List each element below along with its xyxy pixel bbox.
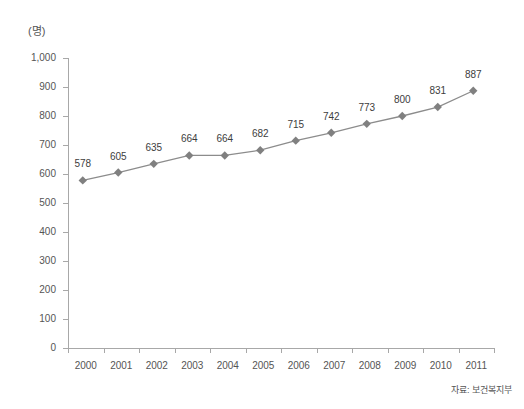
y-axis-tick-label: 200 [10, 284, 56, 295]
x-axis-tick [388, 348, 389, 353]
x-axis-tick-label: 2004 [208, 360, 248, 371]
y-axis-tick [63, 261, 68, 262]
x-axis-tick-label: 2011 [456, 360, 496, 371]
x-axis-tick [68, 348, 69, 353]
y-axis-tick-label: 900 [10, 81, 56, 92]
chart-figure: (명) 578605635664664682715742773800831887… [0, 0, 524, 409]
x-axis-tick [210, 348, 211, 353]
data-point-label: 578 [63, 158, 103, 169]
data-point-label: 664 [169, 133, 209, 144]
x-axis-tick-label: 2001 [101, 360, 141, 371]
x-axis-tick-label: 2008 [350, 360, 390, 371]
data-point-label: 605 [98, 151, 138, 162]
data-point-label: 635 [134, 142, 174, 153]
y-axis-tick [63, 203, 68, 204]
x-axis-tick [246, 348, 247, 353]
y-axis-tick-label: 300 [10, 255, 56, 266]
x-axis-tick-label: 2006 [279, 360, 319, 371]
x-axis-tick [104, 348, 105, 353]
y-axis-tick-label: 100 [10, 313, 56, 324]
data-point-label: 742 [311, 111, 351, 122]
source-note: 자료: 보건복지부 [451, 383, 512, 396]
data-point-marker [292, 136, 300, 144]
x-axis-tick-label: 2010 [421, 360, 461, 371]
y-axis-tick [63, 58, 68, 59]
x-axis-tick-label: 2007 [314, 360, 354, 371]
x-axis-tick-label: 2003 [172, 360, 212, 371]
data-point-marker [363, 120, 371, 128]
y-axis-tick [63, 87, 68, 88]
data-point-label: 773 [347, 102, 387, 113]
data-point-marker [398, 112, 406, 120]
y-axis-tick-label: 600 [10, 168, 56, 179]
x-axis-tick-label: 2009 [385, 360, 425, 371]
x-axis-tick [352, 348, 353, 353]
data-point-label: 887 [453, 69, 493, 80]
x-axis-tick [317, 348, 318, 353]
y-axis-tick-label: 0 [10, 342, 56, 353]
x-axis-tick [423, 348, 424, 353]
data-point-label: 715 [276, 119, 316, 130]
y-axis-tick-label: 700 [10, 139, 56, 150]
data-point-marker [114, 168, 122, 176]
y-axis-tick [63, 232, 68, 233]
data-point-marker [327, 129, 335, 137]
y-axis-tick [63, 145, 68, 146]
data-point-label: 800 [382, 94, 422, 105]
data-point-label: 831 [418, 85, 458, 96]
x-axis-tick [494, 348, 495, 353]
data-point-label: 664 [205, 133, 245, 144]
y-axis-line [68, 58, 69, 349]
y-axis-tick [63, 319, 68, 320]
data-point-marker [79, 176, 87, 184]
data-point-marker [221, 151, 229, 159]
x-axis-tick-label: 2002 [137, 360, 177, 371]
x-axis-tick [139, 348, 140, 353]
data-point-marker [256, 146, 264, 154]
y-axis-tick-label: 500 [10, 197, 56, 208]
data-point-marker [185, 151, 193, 159]
y-axis-tick-label: 400 [10, 226, 56, 237]
data-point-marker [469, 87, 477, 95]
x-axis-tick [459, 348, 460, 353]
y-axis-tick [63, 174, 68, 175]
y-axis-tick-label: 800 [10, 110, 56, 121]
x-axis-tick [175, 348, 176, 353]
y-axis-tick [63, 290, 68, 291]
x-axis-tick-label: 2005 [243, 360, 283, 371]
data-point-label: 682 [240, 128, 280, 139]
x-axis-tick [281, 348, 282, 353]
y-axis-tick-label: 1,000 [10, 52, 56, 63]
data-point-marker [150, 160, 158, 168]
data-point-marker [434, 103, 442, 111]
x-axis-tick-label: 2000 [66, 360, 106, 371]
y-axis-tick [63, 116, 68, 117]
